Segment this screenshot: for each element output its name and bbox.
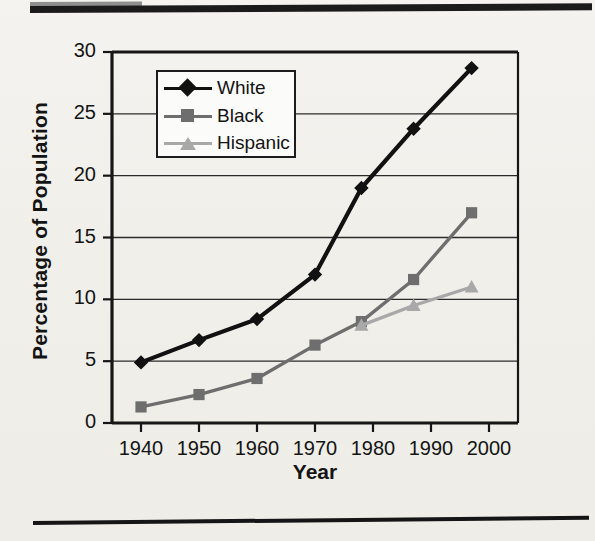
series-line — [141, 213, 472, 407]
data-point-marker — [251, 373, 262, 384]
legend-item-white: White — [164, 74, 266, 101]
chart-figure: Percentage of Population Year 0510152025… — [0, 14, 595, 514]
x-tick-label: 1990 — [399, 437, 463, 460]
series-hispanic — [354, 280, 478, 331]
data-point-marker — [134, 355, 148, 369]
data-point-marker — [465, 280, 479, 292]
x-tick-label: 1940 — [109, 437, 173, 460]
data-point-marker — [192, 333, 206, 347]
x-tick-label: 2000 — [457, 437, 521, 460]
y-tick-label: 20 — [50, 163, 96, 186]
y-tick-label: 30 — [50, 39, 96, 62]
y-tick-label: 10 — [50, 286, 96, 309]
data-point-marker — [193, 389, 204, 400]
y-tick-label: 5 — [50, 348, 96, 371]
legend-key-diamond-icon — [164, 78, 212, 98]
legend-label-hispanic: Hispanic — [217, 132, 290, 154]
data-point-marker — [135, 401, 146, 412]
legend-label-black: Black — [217, 105, 263, 127]
legend-item-hispanic: Hispanic — [164, 129, 290, 156]
x-tick-label: 1970 — [283, 437, 347, 460]
y-tick-label: 0 — [50, 410, 96, 433]
legend-key-triangle-icon — [164, 133, 212, 153]
legend-key-square-icon — [164, 106, 212, 126]
y-tick-label: 25 — [50, 101, 96, 124]
legend-label-white: White — [217, 77, 266, 99]
legend-item-black: Black — [164, 102, 263, 129]
x-tick-label: 1980 — [341, 437, 405, 460]
x-axis-title: Year — [112, 460, 518, 484]
data-point-marker — [408, 274, 419, 285]
chart-legend: White Black Hispanic — [156, 70, 296, 158]
x-tick-label: 1950 — [167, 437, 231, 460]
y-tick-label: 15 — [50, 225, 96, 248]
x-tick-label: 1960 — [225, 437, 289, 460]
y-axis-title: Percentage of Population — [28, 51, 52, 411]
data-point-marker — [309, 339, 320, 350]
data-point-marker — [466, 207, 477, 218]
